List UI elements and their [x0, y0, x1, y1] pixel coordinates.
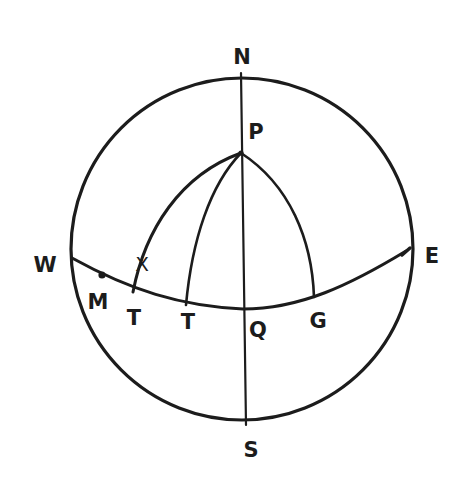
label-m: M [88, 292, 109, 313]
arc-p-to-g [241, 153, 314, 297]
meridian-line-ns [241, 73, 246, 425]
label-t2: T [181, 312, 195, 333]
label-south: S [243, 440, 258, 461]
label-g: G [309, 311, 326, 332]
celestial-sphere-diagram [0, 0, 467, 483]
label-star-x: X [135, 254, 149, 274]
label-north: N [233, 47, 251, 68]
pole-point [238, 150, 243, 155]
point-m-marker [98, 271, 105, 278]
label-west: W [33, 255, 56, 276]
label-east: E [425, 246, 439, 267]
equator-arc-we [72, 251, 406, 309]
label-q: Q [249, 320, 267, 341]
label-pole: P [248, 122, 263, 143]
label-t1: T [127, 308, 141, 329]
arc-p-to-t2 [186, 153, 241, 305]
